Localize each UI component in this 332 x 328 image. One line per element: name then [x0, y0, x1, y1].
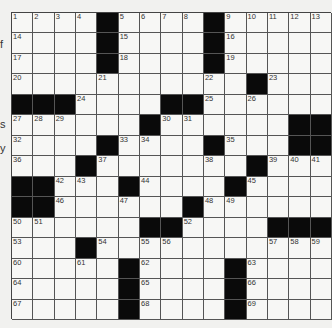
grid-cell[interactable]: [55, 136, 76, 156]
grid-cell[interactable]: 69: [247, 300, 268, 320]
grid-cell[interactable]: 12: [289, 13, 310, 33]
grid-cell[interactable]: [247, 136, 268, 156]
grid-cell[interactable]: 33: [119, 136, 140, 156]
grid-cell[interactable]: [97, 95, 118, 115]
grid-cell[interactable]: [76, 300, 97, 320]
grid-cell[interactable]: [33, 156, 54, 176]
grid-cell[interactable]: 25: [204, 95, 225, 115]
grid-cell[interactable]: [311, 177, 332, 197]
grid-cell[interactable]: [268, 54, 289, 74]
grid-cell[interactable]: [183, 259, 204, 279]
grid-cell[interactable]: [161, 33, 182, 53]
grid-cell[interactable]: [311, 259, 332, 279]
grid-cell[interactable]: 36: [12, 156, 33, 176]
grid-cell[interactable]: [97, 115, 118, 135]
grid-cell[interactable]: 52: [183, 218, 204, 238]
grid-cell[interactable]: 39: [268, 156, 289, 176]
grid-cell[interactable]: [268, 279, 289, 299]
grid-cell[interactable]: 3: [55, 13, 76, 33]
grid-cell[interactable]: [289, 74, 310, 94]
grid-cell[interactable]: 15: [119, 33, 140, 53]
grid-cell[interactable]: [268, 95, 289, 115]
grid-cell[interactable]: [225, 95, 246, 115]
grid-cell[interactable]: 60: [12, 259, 33, 279]
grid-cell[interactable]: [161, 177, 182, 197]
grid-cell[interactable]: [161, 54, 182, 74]
grid-cell[interactable]: 58: [289, 238, 310, 258]
grid-cell[interactable]: [97, 300, 118, 320]
grid-cell[interactable]: 42: [55, 177, 76, 197]
grid-cell[interactable]: [140, 197, 161, 217]
grid-cell[interactable]: 38: [204, 156, 225, 176]
grid-cell[interactable]: [289, 177, 310, 197]
grid-cell[interactable]: 23: [268, 74, 289, 94]
grid-cell[interactable]: [183, 177, 204, 197]
grid-cell[interactable]: [161, 136, 182, 156]
grid-cell[interactable]: 45: [247, 177, 268, 197]
grid-cell[interactable]: 16: [225, 33, 246, 53]
grid-cell[interactable]: [97, 279, 118, 299]
grid-cell[interactable]: [289, 95, 310, 115]
grid-cell[interactable]: 34: [140, 136, 161, 156]
grid-cell[interactable]: [76, 33, 97, 53]
grid-cell[interactable]: [55, 33, 76, 53]
grid-cell[interactable]: 5: [119, 13, 140, 33]
grid-cell[interactable]: [33, 259, 54, 279]
grid-cell[interactable]: [289, 197, 310, 217]
grid-cell[interactable]: [289, 279, 310, 299]
grid-cell[interactable]: [119, 95, 140, 115]
grid-cell[interactable]: 55: [140, 238, 161, 258]
grid-cell[interactable]: [225, 156, 246, 176]
grid-cell[interactable]: [55, 74, 76, 94]
grid-cell[interactable]: [225, 218, 246, 238]
grid-cell[interactable]: [76, 54, 97, 74]
grid-cell[interactable]: [289, 54, 310, 74]
grid-cell[interactable]: 28: [33, 115, 54, 135]
grid-cell[interactable]: 19: [225, 54, 246, 74]
grid-cell[interactable]: [55, 259, 76, 279]
grid-cell[interactable]: 10: [247, 13, 268, 33]
grid-cell[interactable]: 24: [76, 95, 97, 115]
grid-cell[interactable]: [161, 74, 182, 94]
grid-cell[interactable]: [183, 300, 204, 320]
grid-cell[interactable]: [311, 197, 332, 217]
grid-cell[interactable]: 50: [12, 218, 33, 238]
grid-cell[interactable]: [33, 33, 54, 53]
grid-cell[interactable]: [140, 95, 161, 115]
grid-cell[interactable]: [204, 259, 225, 279]
grid-cell[interactable]: [311, 54, 332, 74]
grid-cell[interactable]: [247, 197, 268, 217]
grid-cell[interactable]: 30: [161, 115, 182, 135]
grid-cell[interactable]: 17: [12, 54, 33, 74]
grid-cell[interactable]: 63: [247, 259, 268, 279]
grid-cell[interactable]: [247, 218, 268, 238]
grid-cell[interactable]: 65: [140, 279, 161, 299]
grid-cell[interactable]: 8: [183, 13, 204, 33]
grid-cell[interactable]: [311, 74, 332, 94]
grid-cell[interactable]: 49: [225, 197, 246, 217]
grid-cell[interactable]: 43: [76, 177, 97, 197]
grid-cell[interactable]: 62: [140, 259, 161, 279]
grid-cell[interactable]: [289, 300, 310, 320]
grid-cell[interactable]: [311, 300, 332, 320]
grid-cell[interactable]: 11: [268, 13, 289, 33]
grid-cell[interactable]: [183, 136, 204, 156]
grid-cell[interactable]: [140, 156, 161, 176]
grid-cell[interactable]: [140, 33, 161, 53]
grid-cell[interactable]: 37: [97, 156, 118, 176]
grid-cell[interactable]: [76, 218, 97, 238]
grid-cell[interactable]: 44: [140, 177, 161, 197]
grid-cell[interactable]: [97, 177, 118, 197]
grid-cell[interactable]: 26: [247, 95, 268, 115]
grid-cell[interactable]: 53: [12, 238, 33, 258]
grid-cell[interactable]: [119, 238, 140, 258]
grid-cell[interactable]: [268, 300, 289, 320]
grid-cell[interactable]: 41: [311, 156, 332, 176]
grid-cell[interactable]: [204, 238, 225, 258]
grid-cell[interactable]: 35: [225, 136, 246, 156]
grid-cell[interactable]: [161, 279, 182, 299]
grid-cell[interactable]: [55, 238, 76, 258]
grid-cell[interactable]: 9: [225, 13, 246, 33]
grid-cell[interactable]: [119, 156, 140, 176]
grid-cell[interactable]: 64: [12, 279, 33, 299]
